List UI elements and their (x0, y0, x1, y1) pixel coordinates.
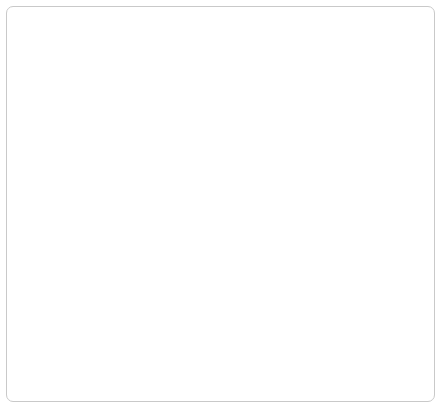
diagram-frame (6, 6, 435, 402)
diagram-canvas (0, 0, 443, 414)
